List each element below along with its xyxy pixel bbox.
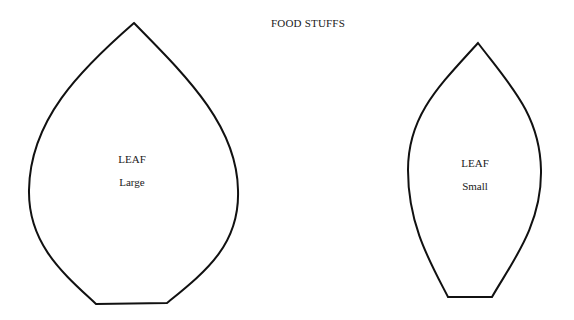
leaf-small-label: LEAF Small xyxy=(435,156,515,193)
leaf-large-name: LEAF xyxy=(92,152,172,166)
leaf-small-name: LEAF xyxy=(435,156,515,170)
leaf-large-size: Large xyxy=(92,175,172,189)
leaf-small-size: Small xyxy=(435,179,515,193)
leaf-large-label: LEAF Large xyxy=(92,152,172,189)
template-page: FOOD STUFFS LEAF Large LEAF Small xyxy=(0,0,574,320)
